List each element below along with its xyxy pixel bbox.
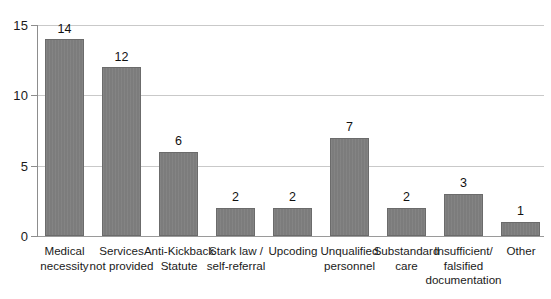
bar-stark-law-self-referral[interactable]: [216, 208, 255, 236]
bar-value-other: 1: [501, 205, 540, 218]
bar-value-anti-kickback-statute: 6: [159, 135, 198, 148]
bar-insufficient-falsified-documentation[interactable]: [444, 194, 483, 236]
bar-value-medical-necessity: 14: [45, 23, 84, 36]
bar-unqualified-personnel[interactable]: [330, 138, 369, 236]
bar-value-substandard-care: 2: [387, 191, 426, 204]
x-label-other: Other: [492, 244, 550, 259]
x-label-insufficient-falsified-documentation: Insufficient/ falsified documentation: [425, 244, 502, 288]
bar-other[interactable]: [501, 222, 540, 236]
bar-value-upcoding: 2: [273, 191, 312, 204]
bar-services-not-provided[interactable]: [102, 67, 141, 236]
bar-value-stark-law-self-referral: 2: [216, 191, 255, 204]
bar-medical-necessity[interactable]: [45, 39, 84, 236]
bar-value-insufficient-falsified-documentation: 3: [444, 177, 483, 190]
bar-upcoding[interactable]: [273, 208, 312, 236]
bar-substandard-care[interactable]: [387, 208, 426, 236]
bar-value-unqualified-personnel: 7: [330, 121, 369, 134]
bar-chart: 15 10 5 0 14 12 6 2 2 7 2: [0, 0, 551, 299]
bar-anti-kickback-statute[interactable]: [159, 152, 198, 236]
bar-value-services-not-provided: 12: [102, 51, 141, 64]
